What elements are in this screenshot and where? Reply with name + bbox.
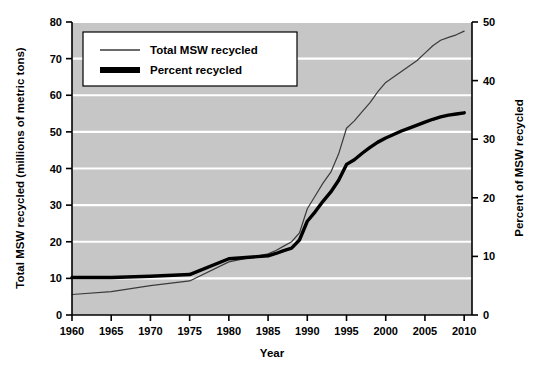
y2-axis-title: Percent of MSW recycled [513, 99, 525, 236]
left-tick-label-10: 10 [50, 272, 62, 284]
right-tick-label-20: 20 [483, 192, 495, 204]
chart-figure: 01020304050607080 01020304050 1960196519… [0, 0, 544, 374]
right-tick-label-30: 30 [483, 133, 495, 145]
x-tick-label-2010: 2010 [452, 325, 476, 337]
y-axis-title: Total MSW recycled (millions of metric t… [14, 47, 26, 288]
left-tick-label-40: 40 [50, 163, 62, 175]
x-axis-title: Year [260, 347, 285, 359]
x-tick-label-1970: 1970 [138, 325, 162, 337]
x-tick-label-2000: 2000 [373, 325, 397, 337]
legend-box [83, 32, 297, 86]
legend-label-total-msw-recycled: Total MSW recycled [150, 44, 258, 56]
left-tick-label-20: 20 [50, 236, 62, 248]
left-tick-label-0: 0 [56, 309, 62, 321]
x-tick-label-1990: 1990 [295, 325, 319, 337]
right-tick-label-0: 0 [483, 309, 489, 321]
chart-legend: Total MSW recycled Percent recycled [83, 32, 297, 86]
right-tick-label-10: 10 [483, 250, 495, 262]
x-tick-label-1980: 1980 [217, 325, 241, 337]
left-tick-label-60: 60 [50, 89, 62, 101]
left-tick-label-30: 30 [50, 199, 62, 211]
left-tick-label-70: 70 [50, 53, 62, 65]
msw-recycling-dual-axis-chart: 01020304050607080 01020304050 1960196519… [0, 0, 544, 374]
x-tick-label-1960: 1960 [60, 325, 84, 337]
x-tick-label-2005: 2005 [413, 325, 437, 337]
x-tick-label-1975: 1975 [177, 325, 201, 337]
x-tick-label-1985: 1985 [256, 325, 280, 337]
x-tick-label-1995: 1995 [334, 325, 358, 337]
legend-label-percent-recycled: Percent recycled [150, 64, 242, 76]
right-tick-label-50: 50 [483, 16, 495, 28]
x-tick-label-1965: 1965 [99, 325, 123, 337]
right-tick-label-40: 40 [483, 75, 495, 87]
left-tick-label-50: 50 [50, 126, 62, 138]
left-tick-label-80: 80 [50, 16, 62, 28]
